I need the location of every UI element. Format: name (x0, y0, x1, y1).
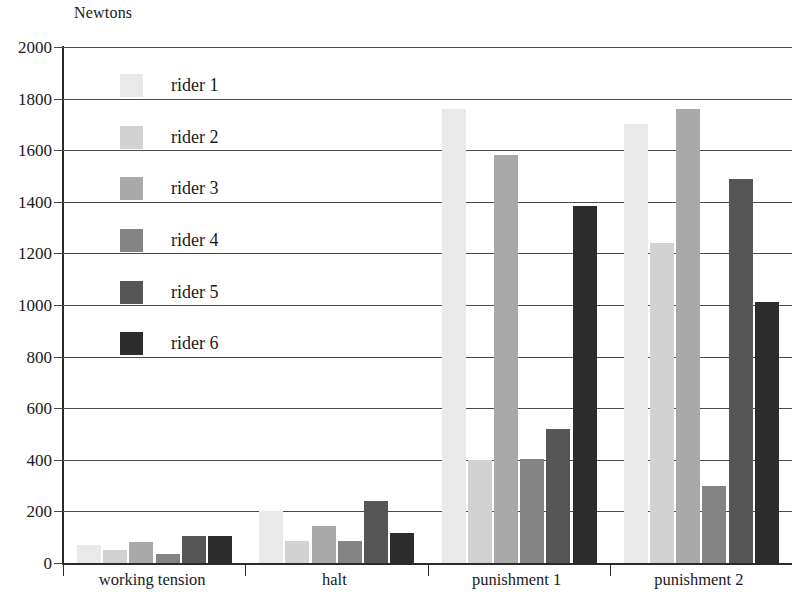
y-tick-mark-600 (54, 408, 63, 409)
bar (624, 124, 648, 563)
bar (103, 550, 127, 563)
bar (182, 536, 206, 563)
bar (729, 179, 753, 563)
y-tick-label-400: 400 (4, 451, 52, 468)
x-axis-category-label: punishment 2 (654, 570, 743, 590)
y-tick-mark-1000 (54, 305, 63, 306)
bar-group (610, 47, 792, 563)
y-tick-mark-0 (54, 563, 63, 564)
y-tick-label-1800: 1800 (4, 90, 52, 107)
x-axis-category-label: punishment 1 (472, 570, 561, 590)
category-divider (245, 563, 246, 576)
legend-label: rider 6 (171, 333, 218, 354)
legend-swatch-icon (120, 126, 143, 149)
bar (650, 243, 674, 563)
bar (755, 302, 779, 563)
y-tick-label-800: 800 (4, 348, 52, 365)
y-tick-mark-2000 (54, 47, 63, 48)
bar (494, 155, 518, 563)
bar-chart: Newtons 02004006008001000120014001600180… (0, 0, 798, 602)
y-tick-mark-400 (54, 460, 63, 461)
category-divider (428, 563, 429, 576)
bar (129, 542, 153, 563)
y-tick-label-0: 0 (4, 555, 52, 572)
bar (573, 206, 597, 563)
x-axis-category-label: halt (322, 570, 347, 590)
bar (285, 541, 309, 563)
bar (338, 541, 362, 563)
legend-swatch-icon (120, 229, 143, 252)
bar (156, 554, 180, 563)
y-tick-label-2000: 2000 (4, 39, 52, 56)
legend-swatch-icon (120, 281, 143, 304)
y-tick-mark-1200 (54, 253, 63, 254)
bar-group (428, 47, 610, 563)
y-tick-mark-1800 (54, 99, 63, 100)
legend-item-rider-5: rider 5 (120, 266, 310, 318)
legend-swatch-icon (120, 177, 143, 200)
category-divider (610, 563, 611, 576)
bar (312, 526, 336, 563)
legend-item-rider-1: rider 1 (120, 60, 310, 112)
legend-item-rider-4: rider 4 (120, 215, 310, 267)
bar (442, 109, 466, 563)
legend-item-rider-2: rider 2 (120, 112, 310, 164)
legend-label: rider 4 (171, 230, 218, 251)
y-tick-mark-1400 (54, 202, 63, 203)
y-tick-mark-800 (54, 357, 63, 358)
y-tick-label-1200: 1200 (4, 245, 52, 262)
legend-label: rider 1 (171, 75, 218, 96)
bar (676, 109, 700, 563)
bar (77, 545, 101, 563)
legend-swatch-icon (120, 332, 143, 355)
bar (468, 460, 492, 563)
y-tick-label-1000: 1000 (4, 297, 52, 314)
legend-item-rider-3: rider 3 (120, 163, 310, 215)
y-tick-label-1400: 1400 (4, 193, 52, 210)
bar (546, 429, 570, 563)
y-tick-mark-200 (54, 511, 63, 512)
bar (259, 511, 283, 563)
y-tick-label-600: 600 (4, 400, 52, 417)
y-tick-label-1600: 1600 (4, 142, 52, 159)
bar (390, 533, 414, 563)
legend-label: rider 5 (171, 282, 218, 303)
bar (702, 486, 726, 563)
y-axis-unit-title: Newtons (74, 4, 132, 22)
y-tick-label-200: 200 (4, 503, 52, 520)
legend-swatch-icon (120, 74, 143, 97)
legend-item-rider-6: rider 6 (120, 318, 310, 370)
category-divider (63, 563, 64, 576)
chart-legend: rider 1rider 2rider 3rider 4rider 5rider… (120, 60, 310, 370)
bar (364, 501, 388, 563)
y-tick-mark-1600 (54, 150, 63, 151)
legend-label: rider 2 (171, 127, 218, 148)
bar (208, 536, 232, 563)
x-axis-category-label: working tension (99, 570, 206, 590)
y-axis-tick-labels: 0200400600800100012001400160018002000 (0, 0, 52, 602)
bar (520, 459, 544, 563)
legend-label: rider 3 (171, 178, 218, 199)
